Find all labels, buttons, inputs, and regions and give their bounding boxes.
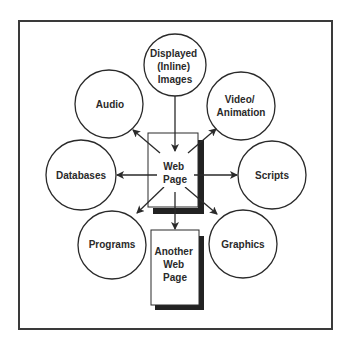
label-audio: Audio xyxy=(96,99,124,110)
node-video-animation xyxy=(207,72,275,140)
shadow-bottom xyxy=(153,208,204,214)
label-scripts: Scripts xyxy=(255,170,289,181)
label-programs: Programs xyxy=(89,239,136,250)
shadow-bottom xyxy=(155,305,204,310)
another-web-page-box xyxy=(151,230,204,310)
web-page-components-diagram: Displayed (Inline) Images Audio Video/ A… xyxy=(0,0,351,344)
shadow-right xyxy=(199,236,204,310)
label-graphics: Graphics xyxy=(221,239,265,250)
label-databases: Databases xyxy=(56,170,106,181)
